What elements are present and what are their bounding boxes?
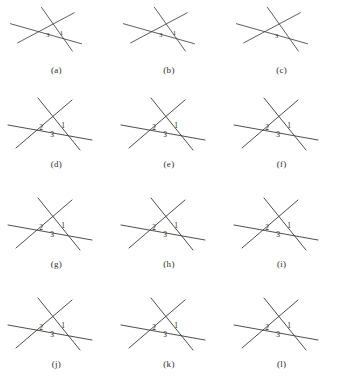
diagram-canvas: 213 xyxy=(113,190,225,258)
angle-label-2: 2 xyxy=(152,123,156,132)
diagram-panel-f: 213(f) xyxy=(225,90,338,190)
angle-label-1: 1 xyxy=(287,321,291,330)
diagram-canvas: 213 xyxy=(0,190,112,258)
diagram-panel-d: 213(d) xyxy=(0,90,113,190)
diagram-panel-b: 31(b) xyxy=(113,0,226,90)
angle-label-3: 3 xyxy=(50,130,54,139)
panel-caption: (e) xyxy=(164,160,175,169)
diagram-canvas: 213 xyxy=(113,290,225,358)
angle-label-1: 1 xyxy=(173,29,176,36)
geometry-line-3 xyxy=(154,7,185,51)
diagram-panel-j: 213(j) xyxy=(0,290,113,390)
panel-caption: (g) xyxy=(51,260,62,269)
panel-caption: (a) xyxy=(51,66,62,75)
angle-label-1: 1 xyxy=(174,121,178,130)
angle-label-1: 1 xyxy=(174,221,178,230)
angle-label-2: 2 xyxy=(265,123,269,132)
angle-label-3: 3 xyxy=(163,130,167,139)
angle-label-3: 3 xyxy=(276,230,280,239)
angle-label-3: 3 xyxy=(50,230,54,239)
panel-caption: (d) xyxy=(51,160,62,169)
diagram-panel-h: 213(h) xyxy=(113,190,226,290)
diagram-canvas: 31 xyxy=(0,0,112,62)
figure-panel-grid: 31(a)31(b)3(c)213(d)213(e)213(f)213(g)21… xyxy=(0,0,338,390)
angle-label-1: 1 xyxy=(61,221,65,230)
panel-caption: (j) xyxy=(52,360,61,369)
angle-label-2: 2 xyxy=(39,223,43,232)
diagram-panel-a: 31(a) xyxy=(0,0,113,90)
diagram-canvas: 31 xyxy=(113,0,225,62)
angle-label-2: 2 xyxy=(265,323,269,332)
diagram-panel-i: 213(i) xyxy=(225,190,338,290)
angle-label-3: 3 xyxy=(50,330,54,339)
angle-label-3: 3 xyxy=(46,31,50,38)
geometry-line-3 xyxy=(42,7,73,51)
angle-label-2: 2 xyxy=(265,223,269,232)
diagram-canvas: 213 xyxy=(226,190,338,258)
diagram-panel-c: 3(c) xyxy=(225,0,338,90)
angle-label-1: 1 xyxy=(61,121,65,130)
diagram-panel-l: 213(l) xyxy=(225,290,338,390)
angle-label-2: 2 xyxy=(39,123,43,132)
angle-label-2: 2 xyxy=(152,323,156,332)
panel-caption: (l) xyxy=(277,360,286,369)
geometry-line-3 xyxy=(267,7,298,51)
angle-label-1: 1 xyxy=(287,221,291,230)
diagram-canvas: 213 xyxy=(226,290,338,358)
angle-label-1: 1 xyxy=(287,121,291,130)
angle-label-3: 3 xyxy=(274,32,278,39)
angle-label-2: 2 xyxy=(39,323,43,332)
diagram-canvas: 3 xyxy=(226,0,338,62)
angle-label-3: 3 xyxy=(276,330,280,339)
panel-caption: (f) xyxy=(277,160,287,169)
diagram-canvas: 213 xyxy=(113,90,225,158)
panel-caption: (h) xyxy=(163,260,174,269)
panel-caption: (c) xyxy=(276,66,287,75)
diagram-panel-g: 213(g) xyxy=(0,190,113,290)
panel-caption: (k) xyxy=(163,360,174,369)
angle-label-3: 3 xyxy=(159,31,163,38)
diagram-panel-k: 213(k) xyxy=(113,290,226,390)
angle-label-1: 1 xyxy=(61,321,65,330)
diagram-canvas: 213 xyxy=(226,90,338,158)
diagram-canvas: 213 xyxy=(0,90,112,158)
diagram-canvas: 213 xyxy=(0,290,112,358)
panel-caption: (b) xyxy=(163,66,174,75)
diagram-panel-e: 213(e) xyxy=(113,90,226,190)
angle-label-3: 3 xyxy=(163,230,167,239)
angle-label-1: 1 xyxy=(174,321,178,330)
panel-caption: (i) xyxy=(277,260,286,269)
angle-label-3: 3 xyxy=(276,130,280,139)
angle-label-3: 3 xyxy=(163,330,167,339)
angle-label-2: 2 xyxy=(152,223,156,232)
angle-label-1: 1 xyxy=(60,29,63,36)
